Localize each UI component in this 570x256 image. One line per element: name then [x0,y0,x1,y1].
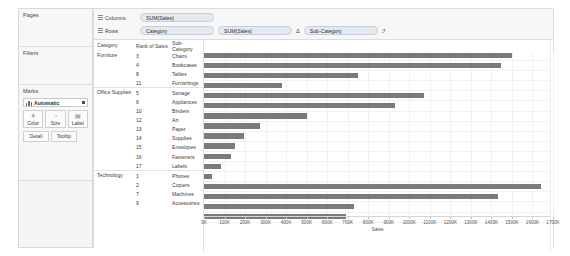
cell-rank: 10 [133,108,169,114]
bar-mark[interactable] [204,143,235,148]
size-shelf-label: Size [51,121,61,126]
table-row[interactable]: 7Machines [94,189,203,198]
cell-rank: 8 [133,71,169,77]
bar-row [204,162,551,172]
mark-type-dropdown[interactable]: Automatic [23,98,88,107]
bar-mark[interactable] [204,123,260,128]
bars-container [204,51,551,215]
bar-row [204,172,551,182]
bar-row [204,61,551,71]
bar-mark[interactable] [204,53,512,58]
visualization-area: Category Rank of Sales Sub-Category Furn… [94,40,553,252]
table-row[interactable]: 6Appliances [94,97,203,106]
filters-card[interactable]: Filters [19,47,92,85]
bar-mark[interactable] [204,164,221,169]
table-row[interactable]: Technology1Phones [94,170,203,180]
rows-grid-icon [98,28,103,33]
chevron-down-icon[interactable] [82,101,85,104]
bar-mark[interactable] [204,113,307,118]
columns-shelf[interactable]: Columns SUM(Sales) [94,11,553,24]
table-row[interactable]: 10Binders [94,107,203,116]
bar-mark[interactable] [204,83,282,88]
axis-line [204,216,551,217]
columns-shelf-label: Columns [98,15,140,21]
detail-shelf-button[interactable]: Detail [23,131,49,142]
table-row[interactable]: 9Accessories [94,199,203,208]
bar-mark[interactable] [204,103,395,108]
axis-tick-label: 1600K [526,220,539,225]
axis-tick-label: 1100K [423,220,436,225]
cell-sub-category: Storage [169,90,203,96]
bar-mark[interactable] [204,133,244,138]
mark-type-label: Automatic [34,100,82,106]
bar-mark[interactable] [204,63,501,68]
color-shelf-button[interactable]: ⚘ Color [23,110,43,128]
table-row[interactable]: Furniture3Chairs [94,51,203,60]
size-shelf-button[interactable]: ◔ Size [45,110,65,128]
table-row[interactable]: 14Supplies [94,134,203,143]
bar-mark[interactable] [204,154,231,159]
cell-sub-category: Phones [169,173,203,179]
pill-columns-sum-sales[interactable]: SUM(Sales) [140,13,214,22]
table-row[interactable]: 13Paper [94,125,203,134]
bar-mark[interactable] [204,204,354,209]
row-header-titles: Category Rank of Sales Sub-Category [94,40,203,51]
pill-rows-category[interactable]: Category [140,26,214,35]
axis-tick-label: 400K [281,220,292,225]
label-shelf-button[interactable]: ▤ Label [68,110,88,128]
cell-rank: 2 [133,182,169,188]
axis-tick-label: 900K [383,220,394,225]
cell-sub-category: Envelopes [169,144,203,150]
axis-tick-label: 1700K [546,220,559,225]
cell-sub-category: Binders [169,108,203,114]
cell-category: Furniture [94,53,133,58]
pages-card[interactable]: Pages [19,9,92,47]
rows-shelf-label: Rows [98,28,140,34]
axis-tick-label: 500K [301,220,312,225]
pill-rows-sum-sales[interactable]: SUM(Sales) [218,26,292,35]
pill-rows-sub-category[interactable]: Sub-Category [304,26,378,35]
table-row[interactable]: 15Envelopes [94,143,203,152]
bar-row [204,152,551,162]
bar-row [204,132,551,142]
bar-chart-icon [26,100,32,106]
bar-row [204,202,551,212]
axis-tick-label: 600K [322,220,333,225]
bar-mark[interactable] [204,93,424,98]
bar-mark[interactable] [204,194,498,199]
axis-tick-label: 1200K [444,220,457,225]
tooltip-shelf-label: Tooltip [57,134,71,139]
table-row[interactable]: 2Copiers [94,180,203,189]
axis-tick-label: 1500K [505,220,518,225]
table-row[interactable]: 16Fasteners [94,152,203,161]
bar-mark[interactable] [204,73,358,78]
filters-card-title: Filters [19,47,92,58]
bar-mark[interactable] [204,184,541,189]
tooltip-shelf-button[interactable]: Tooltip [51,131,77,142]
header-rank-of-sales: Rank of Sales [133,43,169,49]
sort-delta-icon[interactable]: Δ [296,28,300,34]
marks-card: Marks Automatic ⚘ Color ◔ Size [19,85,92,181]
table-row[interactable]: 17Labels [94,161,203,170]
cell-category: Technology [94,173,133,178]
table-row[interactable]: 8Tables [94,69,203,78]
cell-sub-category: Chairs [169,53,203,59]
table-row[interactable]: 4Bookcases [94,60,203,69]
cell-sub-category: Machines [169,191,203,197]
cell-sub-category: Supplies [169,135,203,141]
table-row[interactable]: Office Supplies5Storage [94,87,203,97]
cell-sub-category: Fasteners [169,154,203,160]
bar-row [204,101,551,111]
table-row[interactable]: 11Furnishings [94,78,203,87]
axis-title: Sales [204,227,551,232]
cell-sub-category: Bookcases [169,62,203,68]
rows-shelf[interactable]: Rows Category SUM(Sales) Δ Sub-Category … [94,24,553,37]
cell-rank: 11 [133,80,169,86]
cell-rank: 17 [133,163,169,169]
table-row[interactable]: 12Art [94,116,203,125]
cell-sub-category: Art [169,117,203,123]
bar-mark[interactable] [204,174,212,179]
cell-sub-category: Tables [169,71,203,77]
filter-funnel-icon[interactable]: ℱ [382,28,386,34]
x-axis: 0K100K200K300K400K500K600K700K800K900K10… [204,216,553,252]
